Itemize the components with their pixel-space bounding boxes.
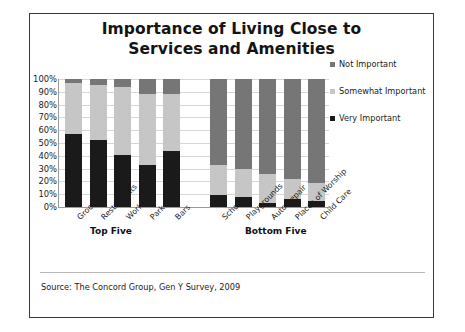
chart-legend: Not ImportantSomewhat ImportantVery Impo… — [330, 59, 430, 140]
plot-area: 100%90%80%70%60%50%40%30%20%10%0% Grocer… — [58, 79, 329, 208]
bar[interactable] — [235, 79, 252, 207]
legend-item[interactable]: Somewhat Important — [330, 86, 430, 96]
bar-segment-some — [163, 94, 180, 150]
bar-segment-very — [139, 165, 156, 207]
source-divider — [40, 272, 425, 273]
y-axis-tick-label: 30% — [23, 164, 57, 174]
legend-swatch-icon — [330, 89, 335, 94]
group-label: Bottom Five — [245, 226, 307, 236]
bar-segment-some — [65, 83, 82, 134]
bar-segment-not — [114, 79, 131, 87]
y-axis: 100%90%80%70%60%50%40%30%20%10%0% — [23, 79, 57, 207]
y-axis-tick-label: 40% — [23, 151, 57, 161]
y-axis-tick-label: 70% — [23, 112, 57, 122]
bar-segment-some — [114, 87, 131, 155]
legend-swatch-icon — [330, 116, 335, 121]
bar-segment-not — [163, 79, 180, 94]
y-axis-tick-label: 100% — [23, 74, 57, 84]
bar-segment-not — [65, 79, 82, 83]
legend-label: Not Important — [339, 59, 397, 69]
y-axis-tick-label: 50% — [23, 138, 57, 148]
group-label: Top Five — [90, 226, 132, 236]
bar-segment-not — [308, 79, 325, 183]
bar[interactable] — [210, 79, 227, 207]
bar-segment-not — [284, 79, 301, 179]
bar-segment-some — [235, 169, 252, 197]
chart-title-line-2: Services and Amenities — [30, 40, 433, 60]
bar-segment-very — [163, 151, 180, 207]
bar[interactable] — [65, 79, 82, 207]
y-axis-tick-label: 90% — [23, 87, 57, 97]
bar-segment-not — [90, 79, 107, 85]
bar-segment-not — [235, 79, 252, 169]
source-note: Source: The Concord Group, Gen Y Survey,… — [41, 282, 240, 292]
bar-segment-not — [259, 79, 276, 174]
y-axis-tick-label: 60% — [23, 125, 57, 135]
legend-label: Somewhat Important — [339, 86, 426, 96]
legend-swatch-icon — [330, 62, 335, 67]
chart-card: Importance of Living Close to Services a… — [29, 13, 434, 318]
bar[interactable] — [163, 79, 180, 207]
bar-segment-some — [90, 85, 107, 140]
bar[interactable] — [139, 79, 156, 207]
y-axis-tick-label: 80% — [23, 100, 57, 110]
y-axis-tick-label: 20% — [23, 176, 57, 186]
y-axis-tick-label: 0% — [23, 202, 57, 212]
y-axis-tick-label: 10% — [23, 189, 57, 199]
bar-segment-very — [65, 134, 82, 207]
bar[interactable] — [90, 79, 107, 207]
legend-label: Very Important — [339, 113, 400, 123]
legend-item[interactable]: Not Important — [330, 59, 430, 69]
bar-segment-very — [210, 195, 227, 207]
chart-title: Importance of Living Close to Services a… — [30, 20, 433, 60]
bar-segment-not — [139, 79, 156, 94]
bar-segment-some — [139, 94, 156, 164]
bar-segment-some — [210, 165, 227, 196]
chart-title-line-1: Importance of Living Close to — [30, 20, 433, 40]
legend-item[interactable]: Very Important — [330, 113, 430, 123]
bar-segment-not — [210, 79, 227, 165]
